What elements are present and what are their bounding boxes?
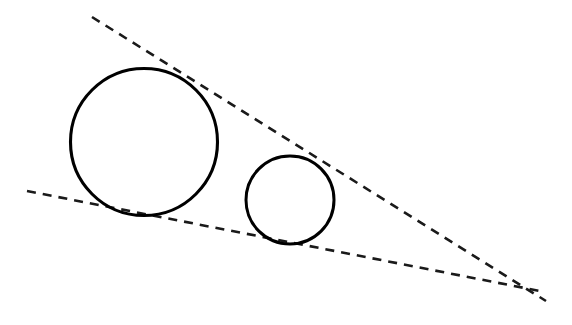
tangent-circles-figure: [0, 0, 572, 325]
figure-background: [0, 0, 572, 325]
diagram-canvas: [0, 0, 572, 325]
